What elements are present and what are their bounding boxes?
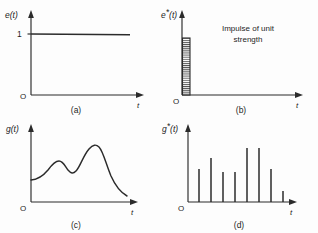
panel-a-x-axis-label: t (137, 101, 140, 110)
panel-c-caption: (c) (71, 220, 81, 230)
panel-a: e(t) t O 1 (a) (0, 0, 159, 117)
panel-d-caption: (d) (234, 220, 245, 230)
panel-c-response-curve (31, 145, 127, 196)
panel-b-x-axis-label: t (296, 101, 299, 110)
panel-d-y-axis-arrow (185, 124, 191, 132)
panel-b-origin-label: O (173, 97, 179, 106)
panel-a-caption: (a) (71, 105, 82, 115)
panel-a-x-axis-arrow (136, 92, 144, 98)
panel-c-x-axis-arrow (130, 199, 138, 205)
panel-c-y-axis-arrow (28, 124, 34, 132)
panel-c-x-axis-label: t (131, 208, 134, 217)
figure-root: e(t) t O 1 (a) (0, 0, 318, 233)
panel-a-y-axis-label: e(t) (5, 10, 18, 20)
panel-d-x-axis-arrow (289, 199, 297, 205)
panel-c: g(t) t O (c) (0, 116, 159, 233)
panel-a-origin-label: O (20, 92, 26, 101)
panel-b-y-axis-arrow (179, 10, 185, 18)
panel-b: e*(t) t O Impulse of unit strength (b) (159, 0, 318, 117)
panel-b-y-axis-label: e*(t) (161, 7, 177, 20)
panel-c-origin-label: O (20, 204, 26, 213)
panel-d-y-axis-label: g*(t) (162, 121, 178, 134)
panel-b-unit-impulse-bar (183, 38, 191, 95)
panel-c-y-axis-label: g(t) (6, 124, 19, 134)
panel-b-x-axis-arrow (295, 92, 303, 98)
panel-d: g*(t) t O (d) (159, 116, 318, 233)
panel-b-annotation-line1: Impulse of unit (222, 24, 275, 33)
panel-d-origin-label: O (178, 204, 184, 213)
panel-b-annotation-line2: strength (234, 35, 263, 44)
panel-b-caption: (b) (236, 105, 247, 115)
panel-d-x-axis-label: t (290, 208, 293, 217)
panel-a-y-tick-label: 1 (17, 29, 22, 39)
panel-a-unit-step-line (31, 34, 130, 35)
panel-a-y-axis-arrow (28, 10, 34, 18)
panel-d-impulse-train (199, 148, 283, 202)
